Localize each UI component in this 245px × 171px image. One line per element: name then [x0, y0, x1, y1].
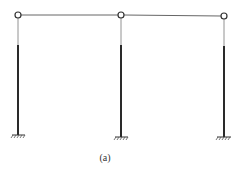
column-left: [11, 18, 25, 138]
hinge-icon: [221, 13, 227, 19]
fixed-support-icon: [114, 137, 128, 140]
beam: [124, 15, 221, 16]
fixed-support-icon: [11, 135, 25, 138]
frame-diagram: [0, 0, 245, 171]
column-right: [216, 19, 231, 140]
hinge-icon: [15, 12, 21, 18]
figure-caption: (a): [95, 152, 115, 163]
column-middle: [114, 18, 128, 140]
fixed-support-icon: [216, 137, 231, 140]
hinge-icon: [118, 12, 124, 18]
